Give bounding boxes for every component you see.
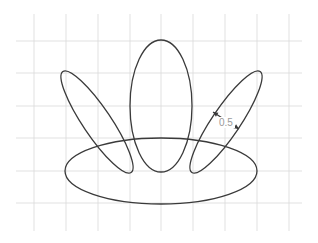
grid	[16, 14, 302, 231]
ellipses-group	[51, 40, 271, 204]
dimension-label: 0.5	[219, 117, 233, 128]
ellipse-diagram: 0.5	[0, 0, 318, 243]
dimension-annotation: 0.5	[213, 112, 239, 129]
left-ellipse	[51, 64, 142, 181]
